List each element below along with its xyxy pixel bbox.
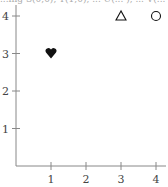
data-points — [46, 11, 161, 59]
y-tick-label: 2 — [2, 85, 9, 98]
y-ticks: 1234 — [2, 10, 20, 136]
circle-icon — [152, 12, 161, 21]
x-tick-label: 3 — [118, 173, 125, 186]
y-tick-label: 3 — [2, 48, 9, 61]
y-tick-label: 4 — [2, 10, 9, 23]
heart-icon — [46, 48, 57, 58]
scatter-plot: 1234 1234 — [0, 0, 168, 187]
triangle-icon — [116, 11, 126, 20]
y-tick-label: 1 — [2, 123, 9, 136]
x-tick-label: 4 — [153, 173, 160, 186]
x-tick-label: 2 — [83, 173, 90, 186]
x-tick-label: 1 — [48, 173, 55, 186]
